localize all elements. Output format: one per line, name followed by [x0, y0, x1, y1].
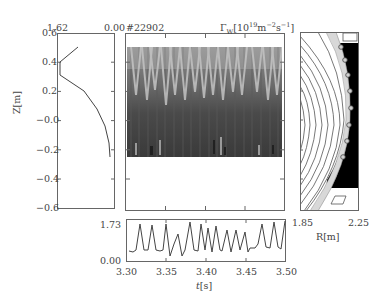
gamma-units-open: [10 [233, 22, 249, 33]
t-axis-unit: [s] [200, 280, 212, 291]
z-tick-0.4: 0.4 [42, 57, 57, 67]
profile-ticks [57, 62, 115, 179]
profile-top-right-label: 0.00 [104, 23, 125, 33]
z-tick-m0.2: −0.2 [36, 145, 59, 155]
contour-image [127, 47, 282, 157]
trace-ymin-label: 0.00 [100, 256, 121, 266]
t-tick-3.30: 3.30 [116, 267, 137, 277]
t-tick-3.45: 3.45 [236, 267, 257, 277]
profile-frame [58, 34, 115, 209]
z-tick-m0.6: −0.6 [36, 203, 59, 213]
z-tick-0.6: 0.6 [42, 28, 57, 38]
r-tick-min: 1.85 [292, 218, 313, 228]
gamma-exp-m2: −2 [266, 21, 276, 29]
gamma-exp-m1: −1 [281, 21, 291, 29]
t-tick-3.35: 3.35 [156, 267, 177, 277]
t-tick-3.40: 3.40 [196, 267, 217, 277]
trace-ymax-label: 1.73 [100, 220, 121, 230]
z-tick-0.2: 0.2 [42, 86, 57, 96]
z-tick-m0.4: −0.4 [36, 174, 59, 184]
t-tick-3.50: 3.50 [276, 267, 297, 277]
timetrace-panel [127, 220, 286, 263]
gamma-symbol: Γ [220, 22, 227, 33]
gamma-units-close: ] [290, 22, 294, 33]
contour-panel [126, 34, 285, 211]
t-axis-label: t[s] [196, 281, 212, 291]
z-tick-0.0: −0.0 [36, 115, 59, 125]
profile-panel [57, 34, 115, 209]
profile-line [60, 47, 110, 157]
timetrace-line [129, 221, 285, 256]
r-tick-max: 2.25 [348, 218, 369, 228]
gamma-label: ΓW[1019m−2s−1] [220, 22, 294, 36]
geometry-panel [300, 32, 359, 211]
shot-number: #22902 [126, 23, 164, 33]
z-axis-label: Z[m] [12, 91, 22, 114]
r-axis-label: R[m] [316, 232, 340, 242]
